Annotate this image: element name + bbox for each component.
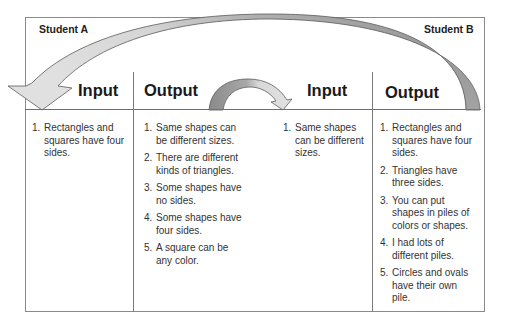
student-b-output-title: Output [385, 83, 439, 102]
student-b-input-list: 1.Same shapes can be different sizes. [283, 122, 367, 165]
student-a-column-divider [133, 72, 134, 312]
list-item: 2.Triangles have three sides. [380, 165, 476, 190]
list-item: 3.Some shapes have no sides. [144, 182, 242, 207]
list-item: 5.Circles and ovals have their own pile. [380, 267, 476, 305]
list-item: 1.Same shapes can be different sizes. [283, 122, 367, 160]
list-item: 2.There are different kinds of triangles… [144, 152, 242, 177]
student-a-input-list: 1.Rectangles and squares have four sides… [32, 122, 128, 165]
header-divider [25, 109, 481, 110]
list-item: 1.Rectangles and squares have four sides… [380, 122, 476, 160]
student-b-column-divider [372, 72, 373, 312]
list-item: 1.Same shapes can be different sizes. [144, 122, 242, 147]
list-item: 5.A square can be any color. [144, 242, 242, 267]
arrow-a-output-to-b-input [209, 79, 292, 110]
student-a-output-title: Output [144, 81, 198, 100]
list-item: 1.Rectangles and squares have four sides… [32, 122, 128, 160]
student-a-label: Student A [39, 23, 88, 35]
list-item: 4.Some shapes have four sides. [144, 212, 242, 237]
student-b-label: Student B [424, 23, 474, 35]
student-a-input-title: Input [78, 81, 118, 100]
list-item: 4.I had lots of different piles. [380, 237, 476, 262]
list-item: 3.You can put shapes in piles of colors … [380, 195, 476, 233]
student-b-input-title: Input [307, 81, 347, 100]
student-b-output-list: 1.Rectangles and squares have four sides… [380, 122, 476, 310]
student-a-output-list: 1.Same shapes can be different sizes. 2.… [144, 122, 242, 272]
